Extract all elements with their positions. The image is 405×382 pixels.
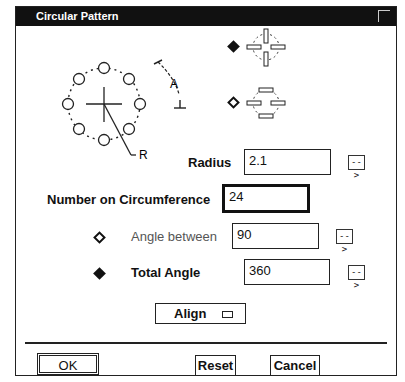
radius-label: Radius	[188, 155, 231, 170]
angle-between-label: Angle between	[131, 229, 217, 244]
angle-between-input[interactable]: 90	[232, 223, 319, 249]
ok-button[interactable]: OK	[37, 353, 99, 375]
total-angle-radio[interactable]	[93, 267, 106, 280]
align-label: Align	[174, 306, 207, 321]
number-on-circumference-label: Number on Circumference	[47, 192, 210, 207]
radius-arrow-button[interactable]: -->	[348, 155, 365, 170]
fixed-orientation-radio[interactable]	[227, 96, 240, 109]
number-on-circumference-input[interactable]: 24	[222, 184, 310, 213]
total-angle-arrow-button[interactable]: -->	[348, 265, 365, 280]
svg-text:A: A	[170, 77, 178, 91]
radius-input[interactable]: 2.1	[244, 149, 331, 175]
total-angle-label: Total Angle	[131, 265, 200, 280]
title-bar[interactable]: Circular Pattern	[16, 7, 396, 26]
window-menu-button[interactable]	[378, 10, 390, 22]
svg-text:R: R	[139, 148, 148, 162]
reset-button[interactable]: Reset	[195, 355, 236, 376]
angle-between-arrow-button[interactable]: -->	[336, 229, 353, 244]
separator	[25, 342, 387, 344]
align-option-button[interactable]: Align	[155, 303, 246, 324]
total-angle-input[interactable]: 360	[244, 259, 330, 285]
angle-between-radio[interactable]	[93, 231, 106, 244]
circular-pattern-dialog: Circular Pattern R A	[15, 6, 397, 376]
rotated-slots-icon	[241, 24, 291, 70]
option-menu-indicator-icon	[222, 311, 233, 318]
fixed-slots-icon	[241, 80, 291, 126]
window-title: Circular Pattern	[36, 10, 119, 22]
cancel-button[interactable]: Cancel	[270, 355, 320, 376]
circular-pattern-diagram-icon: R A	[36, 42, 196, 162]
rotate-orientation-radio[interactable]	[227, 40, 240, 53]
